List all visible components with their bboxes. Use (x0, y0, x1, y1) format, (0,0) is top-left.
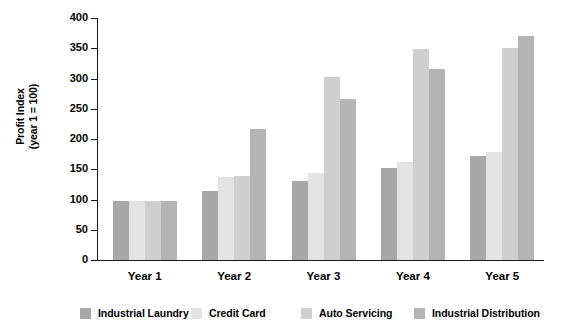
y-tick-mark (91, 260, 97, 261)
y-tick-label: 100 (70, 193, 88, 205)
bar (502, 48, 518, 260)
bar (340, 99, 356, 260)
legend-label: Auto Servicing (319, 307, 392, 319)
y-tick-mark (91, 79, 97, 80)
y-tick-mark (91, 139, 97, 140)
bar-group-2 (202, 18, 266, 260)
y-tick-mark (91, 230, 97, 231)
x-axis-line (97, 260, 544, 261)
legend-item-1[interactable]: Industrial Laundry (80, 304, 189, 322)
y-tick-mark (91, 109, 97, 110)
legend-swatch-icon (414, 308, 425, 319)
y-tick-0: 0 (97, 260, 98, 261)
y-tick-200: 200 (97, 139, 98, 140)
legend-label: Industrial Distribution (432, 307, 540, 319)
bar (397, 162, 413, 260)
bar (381, 168, 397, 260)
bar (218, 177, 234, 260)
y-axis-title: Profit Index (year 1 = 100) (14, 57, 39, 177)
bar (234, 176, 250, 260)
legend-item-3[interactable]: Auto Servicing (301, 304, 392, 322)
bar-chart: Profit Index (year 1 = 100) 050100150200… (0, 0, 564, 332)
y-tick-100: 100 (97, 200, 98, 201)
y-tick-label: 350 (70, 41, 88, 53)
x-axis-label-2: Year 2 (194, 270, 274, 282)
y-tick-label: 300 (70, 72, 88, 84)
y-tick-mark (91, 169, 97, 170)
y-tick-label: 250 (70, 102, 88, 114)
plot-area: 050100150200250300350400 (97, 18, 544, 260)
bar (145, 201, 161, 260)
y-tick-250: 250 (97, 109, 98, 110)
bar (113, 201, 129, 260)
y-tick-300: 300 (97, 79, 98, 80)
legend-swatch-icon (80, 308, 91, 319)
bar (161, 201, 177, 260)
y-tick-50: 50 (97, 230, 98, 231)
x-axis-label-3: Year 3 (284, 270, 364, 282)
bar (429, 69, 445, 260)
bar (470, 156, 486, 260)
bar-group-4 (381, 18, 445, 260)
x-axis-label-5: Year 5 (462, 270, 542, 282)
bar (324, 77, 340, 260)
chart-legend: Industrial LaundryCredit CardAuto Servic… (0, 304, 564, 326)
y-tick-mark (91, 18, 97, 19)
bar (250, 129, 266, 260)
bar-group-5 (470, 18, 534, 260)
x-axis-label-1: Year 1 (105, 270, 185, 282)
bar (292, 181, 308, 260)
y-tick-label: 0 (82, 253, 88, 265)
y-tick-label: 200 (70, 132, 88, 144)
bar (202, 191, 218, 260)
legend-item-2[interactable]: Credit Card (191, 304, 266, 322)
bar (129, 201, 145, 260)
legend-label: Industrial Laundry (98, 307, 189, 319)
bar (486, 152, 502, 260)
y-tick-350: 350 (97, 48, 98, 49)
y-tick-mark (91, 48, 97, 49)
y-tick-400: 400 (97, 18, 98, 19)
y-tick-150: 150 (97, 169, 98, 170)
y-tick-label: 150 (70, 162, 88, 174)
y-tick-label: 50 (76, 223, 88, 235)
bar (413, 49, 429, 260)
bar-group-1 (113, 18, 177, 260)
legend-label: Credit Card (209, 307, 266, 319)
bar-group-3 (292, 18, 356, 260)
bar (518, 36, 534, 260)
y-tick-mark (91, 200, 97, 201)
legend-swatch-icon (191, 308, 202, 319)
bar (308, 173, 324, 260)
legend-item-4[interactable]: Industrial Distribution (414, 304, 540, 322)
y-tick-label: 400 (70, 11, 88, 23)
x-axis-label-4: Year 4 (373, 270, 453, 282)
legend-swatch-icon (301, 308, 312, 319)
